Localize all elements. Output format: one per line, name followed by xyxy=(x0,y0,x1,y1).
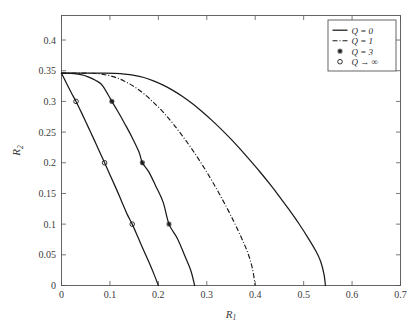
x-tick-label: 0.4 xyxy=(249,289,262,300)
x-tick-label: 0 xyxy=(59,289,64,300)
y-tick-label: 0.25 xyxy=(39,127,57,138)
x-tick-label: 0.7 xyxy=(394,289,407,300)
y-tick-label: 0.35 xyxy=(39,65,57,76)
x-tick-label: 0.6 xyxy=(346,289,359,300)
x-tick-label: 0.2 xyxy=(152,289,165,300)
y-tick-label: 0.15 xyxy=(39,188,57,199)
legend-label-0: Q = 0 xyxy=(352,26,374,36)
chart-figure: 00.10.20.30.40.50.60.7 00.050.10.150.20.… xyxy=(0,0,419,336)
chart-svg: 00.10.20.30.40.50.60.7 00.050.10.150.20.… xyxy=(0,0,419,336)
y-tick-label: 0 xyxy=(51,280,56,291)
x-tick-label: 0.1 xyxy=(104,289,117,300)
y-tick-label: 0.1 xyxy=(44,219,57,230)
y-tick-label: 0.3 xyxy=(44,96,57,107)
chart-legend[interactable]: Q = 0Q = 1Q = 3Q → ∞ xyxy=(328,20,396,71)
x-tick-label: 0.5 xyxy=(297,289,310,300)
legend-label-1: Q = 1 xyxy=(352,36,374,46)
y-tick-label: 0.05 xyxy=(39,249,57,260)
y-tick-label: 0.4 xyxy=(44,35,57,46)
y-tick-label: 0.2 xyxy=(44,157,57,168)
legend-label-2: Q = 3 xyxy=(352,47,374,57)
x-tick-label: 0.3 xyxy=(201,289,214,300)
legend-label-3: Q → ∞ xyxy=(352,57,378,67)
